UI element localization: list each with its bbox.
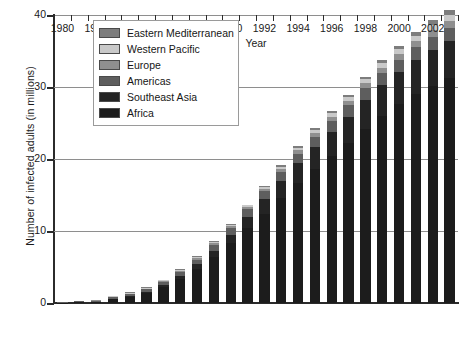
x-axis-tick — [458, 15, 459, 21]
x-axis-tick — [54, 15, 55, 21]
legend-label: Americas — [127, 76, 171, 87]
chart-figure: Number of infected adults (in millions) … — [0, 0, 464, 340]
y-axis-tick-label: 40 — [18, 8, 46, 20]
bar-segment — [428, 86, 438, 303]
bar-segment — [327, 156, 337, 303]
legend-swatch — [99, 92, 120, 102]
bar — [428, 20, 438, 303]
bar — [74, 301, 84, 303]
y-axis-tick — [47, 87, 54, 89]
x-axis-tick — [441, 15, 442, 21]
bar — [411, 32, 421, 303]
bar — [209, 241, 219, 303]
bar-segment — [377, 116, 387, 303]
y-axis-tick-label: 30 — [18, 80, 46, 92]
legend-swatch — [99, 76, 120, 86]
legend-item: Europe — [99, 57, 232, 73]
bar-segment — [175, 279, 185, 303]
bar-segment — [276, 181, 286, 198]
bar — [175, 269, 185, 303]
bar — [377, 60, 387, 303]
legend-label: Europe — [127, 60, 161, 71]
bar-segment — [394, 104, 404, 303]
bar — [108, 296, 118, 303]
bar-segment — [226, 235, 236, 244]
bar — [141, 287, 151, 303]
legend-item: Southeast Asia — [99, 89, 232, 105]
bar-segment — [343, 143, 353, 303]
bar-segment — [293, 183, 303, 303]
bar-segment — [226, 243, 236, 303]
bar-segment — [343, 105, 353, 116]
bar-segment — [411, 94, 421, 303]
legend-swatch — [99, 28, 120, 38]
bar-segment — [259, 214, 269, 303]
bar-segment — [293, 154, 303, 163]
bar-segment — [377, 85, 387, 116]
bar-segment — [242, 209, 252, 216]
bar — [242, 205, 252, 303]
bar-segment — [158, 287, 168, 303]
x-axis-tick — [290, 15, 291, 21]
legend-label: Southeast Asia — [127, 92, 197, 103]
bar-segment — [428, 50, 438, 86]
bar-segment — [74, 302, 84, 303]
bar-segment — [411, 60, 421, 95]
y-axis-tick-label: 10 — [18, 224, 46, 236]
x-axis-tick — [323, 15, 324, 21]
bar — [192, 257, 202, 304]
bar — [310, 128, 320, 303]
bar-segment — [343, 117, 353, 144]
x-axis-tick — [424, 15, 425, 21]
x-axis-tick — [307, 15, 308, 21]
x-axis-tick — [391, 15, 392, 21]
bar-segment — [141, 293, 151, 303]
x-axis-tick — [357, 15, 358, 21]
bar-segment — [394, 60, 404, 72]
bar — [125, 292, 135, 303]
bar — [226, 224, 236, 303]
bar-segment — [192, 269, 202, 303]
legend-item: Africa — [99, 105, 232, 121]
x-axis-tick — [408, 15, 409, 21]
x-axis-tick — [71, 15, 72, 21]
x-axis-tick — [239, 15, 240, 21]
bar-segment — [259, 191, 269, 199]
legend-swatch — [99, 44, 120, 54]
x-axis-tick — [88, 15, 89, 21]
x-axis-tick — [374, 15, 375, 21]
bar — [360, 77, 370, 303]
legend-swatch — [99, 60, 120, 70]
bar-segment — [276, 172, 286, 181]
bar-segment — [360, 88, 370, 100]
bar — [343, 95, 353, 303]
bar-segment — [242, 228, 252, 303]
bar-segment — [209, 257, 219, 303]
x-axis-tick — [340, 15, 341, 21]
legend-label: Africa — [127, 108, 154, 119]
bar-segment — [293, 163, 303, 183]
bar-segment — [360, 100, 370, 129]
y-axis-tick-label: 20 — [18, 152, 46, 164]
y-axis-tick — [47, 15, 54, 17]
bar-segment — [276, 198, 286, 303]
bar — [158, 280, 168, 303]
y-axis-tick-label: 0 — [18, 296, 46, 308]
bar — [91, 300, 101, 303]
bar-segment — [327, 132, 337, 156]
bar-segment — [125, 297, 135, 303]
bar-segment — [310, 169, 320, 303]
bar — [259, 186, 269, 303]
y-axis-tick — [47, 159, 54, 161]
x-axis-tick — [273, 15, 274, 21]
bar-segment — [91, 302, 101, 303]
bar-segment — [310, 147, 320, 169]
bar-segment — [310, 137, 320, 147]
legend-item: Eastern Mediterranean — [99, 25, 232, 41]
bar-segment — [327, 121, 337, 132]
bar — [327, 111, 337, 303]
y-axis-tick — [47, 231, 54, 233]
legend-item: Americas — [99, 73, 232, 89]
bar-segment — [360, 129, 370, 303]
bar — [57, 302, 67, 303]
